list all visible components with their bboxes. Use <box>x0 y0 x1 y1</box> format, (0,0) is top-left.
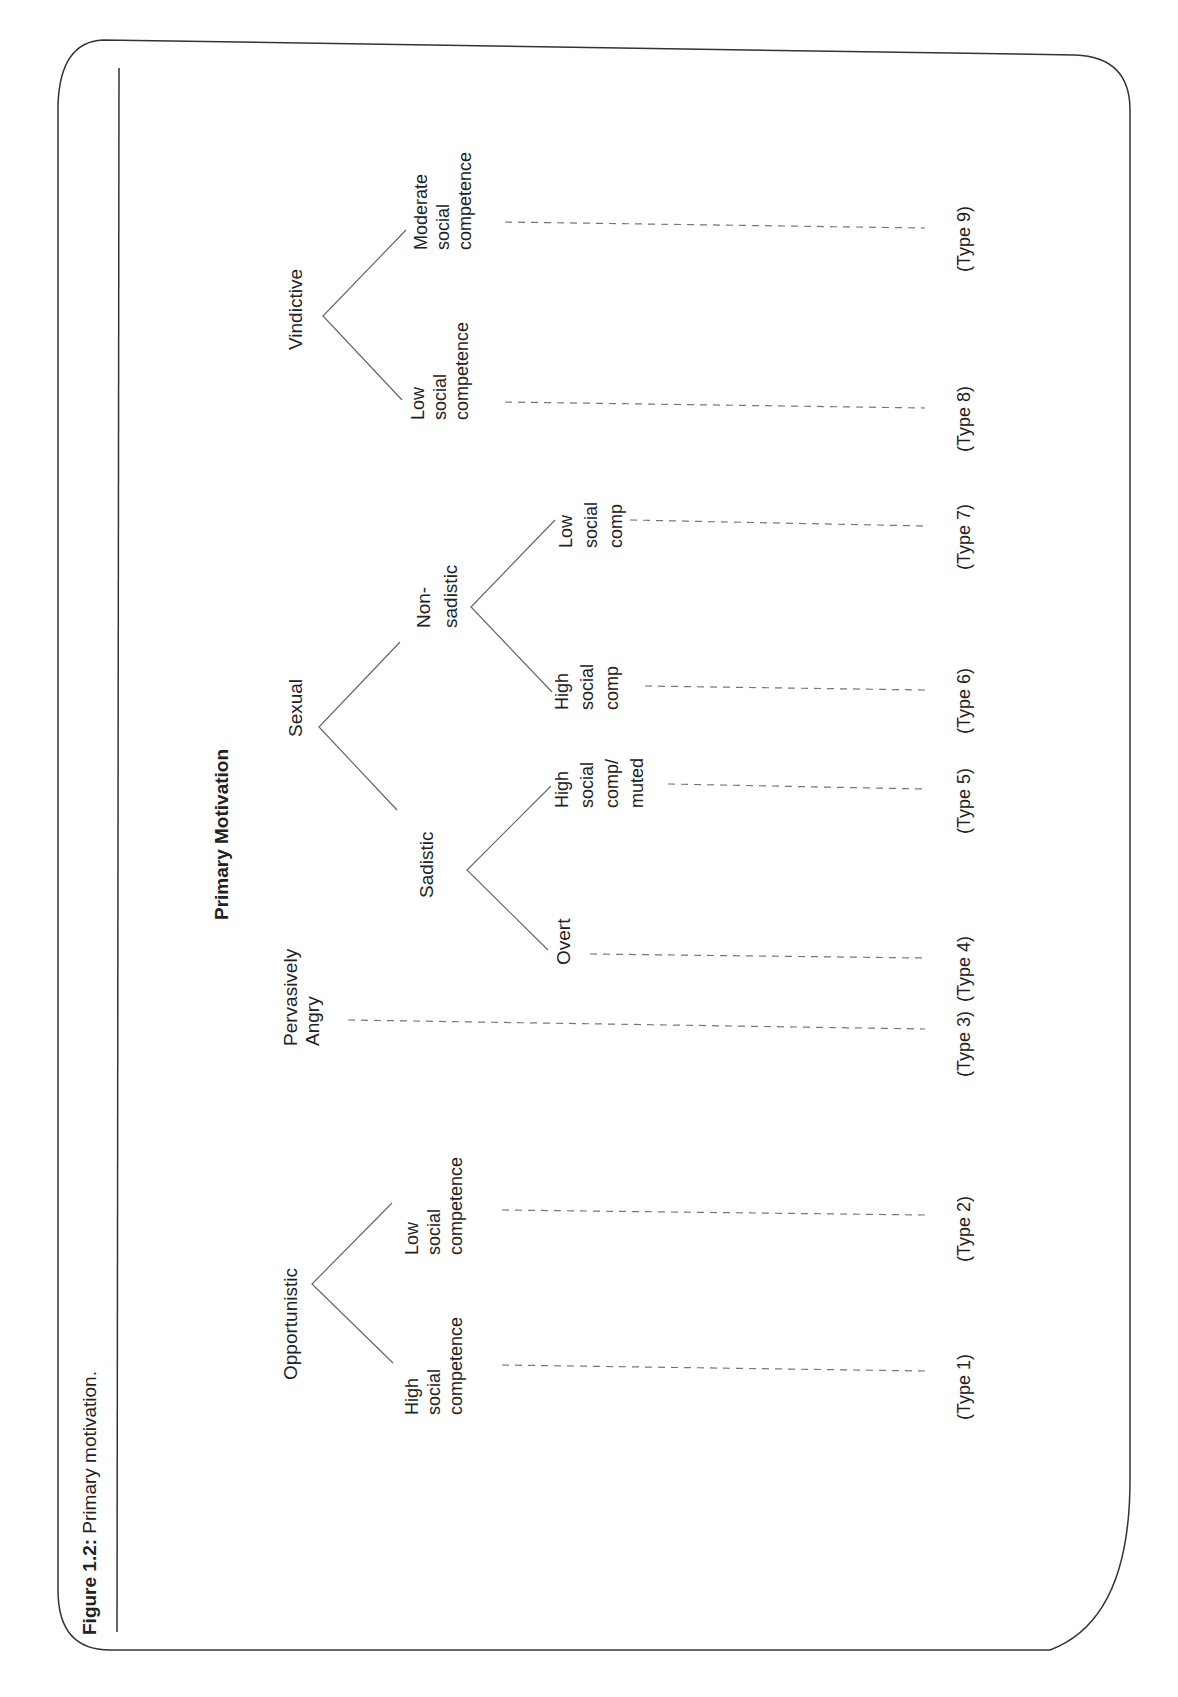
connector-type-9 <box>505 222 925 228</box>
connector-type-2 <box>502 1210 925 1215</box>
leaf-low-social-competence-2: Low social competence <box>408 322 472 420</box>
connector-type-3 <box>348 1020 925 1029</box>
type-1-label: (Type 1) <box>954 1354 974 1420</box>
leaf-high-social-comp: High social comp <box>552 659 622 710</box>
node-opportunistic: Opportunistic <box>280 1268 301 1380</box>
type-labels: (Type 1) (Type 2) (Type 3) (Type 4) (Typ… <box>954 206 974 1420</box>
node-pervasively-angry: Pervasively Angry <box>280 944 323 1046</box>
type-9-label: (Type 9) <box>954 206 974 272</box>
type-4-label: (Type 4) <box>954 936 974 1002</box>
figure-caption: Figure 1.2: Primary motivation. <box>79 1371 100 1635</box>
connector-type-1 <box>502 1365 925 1371</box>
figure-diagram: Figure 1.2: Primary motivation. Primary … <box>0 0 1178 1697</box>
leaf-overt: Overt <box>553 918 574 965</box>
diagram-title: Primary Motivation <box>211 749 232 920</box>
connector-type-8 <box>505 402 925 408</box>
branch-lines-non-sadistic <box>471 520 555 692</box>
type-3-label: (Type 3) <box>954 1011 974 1077</box>
connector-type-7 <box>630 520 925 526</box>
type-2-label: (Type 2) <box>954 1196 974 1262</box>
type-6-label: (Type 6) <box>954 668 974 734</box>
type-7-label: (Type 7) <box>954 504 974 570</box>
leaf-low-social-comp: Low social comp <box>556 497 626 548</box>
connector-type-4 <box>590 954 925 958</box>
branch-lines-opportunistic <box>312 1203 393 1363</box>
branch-lines-sadistic <box>467 786 551 950</box>
node-sexual: Sexual <box>285 679 306 737</box>
connector-type-5 <box>668 784 925 789</box>
node-sadistic: Sadistic <box>416 831 437 898</box>
branch-lines-vindictive <box>323 230 406 400</box>
connector-type-6 <box>645 686 925 690</box>
leaf-high-social-comp-muted: High social comp/ muted <box>552 754 647 808</box>
leaf-high-social-competence: High social competence <box>402 1317 466 1415</box>
type-5-label: (Type 5) <box>954 768 974 834</box>
branch-lines-sexual <box>319 642 400 810</box>
type-8-label: (Type 8) <box>954 386 974 452</box>
leaf-moderate-social-competence: Moderate social competence <box>411 152 475 250</box>
caption-rule <box>117 68 119 1632</box>
node-non-sadistic: Non- sadistic <box>413 565 461 628</box>
node-vindictive: Vindictive <box>285 269 306 350</box>
leaf-low-social-competence-1: Low social competence <box>402 1157 466 1255</box>
